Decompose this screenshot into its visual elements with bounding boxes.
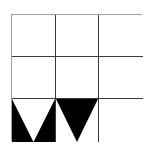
grid-cell-r3c3 [99,99,143,142]
grid-cell-r3c2 [56,99,99,142]
grid-cell-r1c1 [12,15,56,57]
grid-cell-r1c2 [56,15,99,57]
black-square-white-down-triangle-icon [12,99,55,142]
grid-cell-r1c3 [99,15,143,57]
grid-cell-r2c3 [99,57,143,99]
grid-cell-r2c1 [12,57,56,99]
grid-cell-r2c2 [56,57,99,99]
grid-cell-r3c1 [12,99,56,142]
black-down-triangle-icon [56,99,98,142]
puzzle-grid [11,14,142,141]
